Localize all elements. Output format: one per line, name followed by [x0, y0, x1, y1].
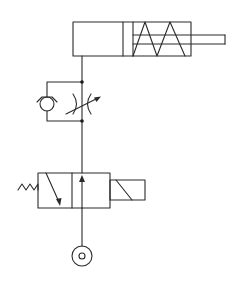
spring-icon	[133, 22, 185, 56]
pressure-source-outer-icon	[72, 246, 92, 266]
cylinder	[73, 22, 225, 56]
junction-dot-top	[80, 80, 84, 84]
bypass-line	[47, 82, 82, 97]
valve-return-spring-icon	[18, 184, 38, 190]
throttle-arc-left-icon	[73, 94, 77, 114]
solenoid-coil-diagonal	[116, 180, 132, 200]
check-valve	[37, 97, 57, 111]
solenoid-actuator	[110, 180, 145, 200]
throttle-arc-right-icon	[88, 94, 92, 114]
adjust-arrow-head-icon	[94, 97, 101, 103]
pressure-source	[72, 246, 92, 266]
flow-arrow-diagonal-shaft	[46, 173, 59, 202]
cylinder-spring	[133, 22, 185, 56]
flow-arrow-up-head-icon	[79, 175, 85, 182]
pressure-source-inner-icon	[79, 253, 85, 259]
valve-cell-left	[46, 173, 62, 206]
solenoid-icon	[110, 180, 145, 200]
pneumatic-circuit-diagram	[0, 0, 241, 285]
flow-arrow-diagonal-head-icon	[56, 198, 62, 206]
adjustable-throttle	[66, 94, 101, 114]
check-valve-ball-icon	[40, 97, 54, 111]
cylinder-barrel	[73, 22, 191, 56]
junction-dot-bottom	[80, 119, 84, 123]
valve-cell-right	[79, 175, 85, 208]
bypass-line-lower	[47, 111, 82, 121]
directional-valve	[18, 173, 145, 208]
flow-control-valve	[37, 80, 101, 123]
